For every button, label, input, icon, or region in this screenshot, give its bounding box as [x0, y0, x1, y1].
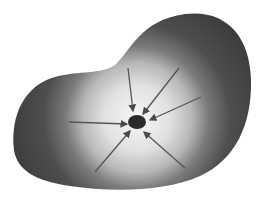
center-spot: [128, 115, 146, 129]
kidney-diagram: [0, 0, 265, 199]
diagram-canvas: [0, 0, 265, 199]
